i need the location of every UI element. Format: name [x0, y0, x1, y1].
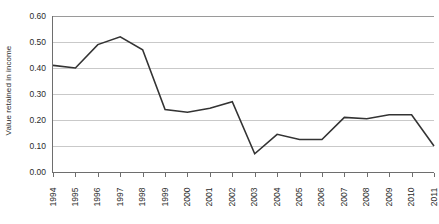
x-tick-mark — [300, 173, 301, 177]
x-tick-mark — [412, 173, 413, 177]
x-tick-label: 1997 — [115, 178, 126, 222]
x-tick-label-text: 2011 — [429, 188, 439, 206]
x-tick-mark — [210, 173, 211, 177]
x-tick-label: 2005 — [294, 178, 305, 222]
x-tick-label: 1994 — [48, 178, 59, 222]
x-tick-mark — [367, 173, 368, 177]
x-tick-label: 1999 — [160, 178, 171, 222]
x-tick-mark — [98, 173, 99, 177]
x-tick-label-text: 2000 — [182, 188, 192, 207]
x-tick-label-text: 2006 — [317, 188, 327, 207]
x-tick-label: 2007 — [339, 178, 350, 222]
x-tick-mark — [255, 173, 256, 177]
x-tick-label: 2006 — [316, 178, 327, 222]
x-tick-label: 2010 — [406, 178, 417, 222]
y-tick-label: 0.30 — [29, 89, 46, 99]
x-tick-label-text: 2009 — [384, 188, 394, 207]
x-tick-label-text: 2003 — [250, 188, 260, 207]
y-axis-line — [52, 16, 53, 173]
x-tick-mark — [344, 173, 345, 177]
line-chart-figure: Value retained in income 0.000.100.200.3… — [0, 0, 439, 224]
x-tick-mark — [53, 173, 54, 177]
x-tick-label-text: 1996 — [93, 188, 103, 207]
x-tick-label: 2003 — [249, 178, 260, 222]
y-axis-title-label: Value retained in income — [5, 45, 14, 135]
x-tick-label-text: 2001 — [205, 188, 215, 207]
x-tick-mark — [187, 173, 188, 177]
x-tick-label: 2011 — [429, 178, 439, 222]
x-tick-label: 2008 — [361, 178, 372, 222]
x-tick-label-text: 1995 — [70, 188, 80, 207]
x-axis-tick-labels: 1994199519961997199819992000200120022003… — [53, 178, 434, 224]
y-tick-label: 0.60 — [29, 11, 46, 21]
x-tick-mark — [434, 173, 435, 177]
x-tick-label: 2001 — [204, 178, 215, 222]
y-tick-label: 0.00 — [29, 167, 46, 177]
data-series-line — [53, 16, 434, 172]
x-tick-mark — [143, 173, 144, 177]
x-tick-label-text: 1998 — [138, 188, 148, 207]
x-tick-label-text: 2004 — [272, 188, 282, 207]
x-tick-label-text: 2008 — [362, 188, 372, 207]
x-tick-mark — [389, 173, 390, 177]
x-tick-label: 2004 — [272, 178, 283, 222]
x-tick-label-text: 2007 — [339, 188, 349, 207]
plot-area — [53, 16, 434, 172]
x-tick-mark — [75, 173, 76, 177]
x-tick-label: 1996 — [92, 178, 103, 222]
x-tick-label: 2002 — [227, 178, 238, 222]
x-tick-label-text: 2002 — [227, 188, 237, 207]
y-axis-tick-labels: 0.000.100.200.300.400.500.60 — [16, 0, 50, 182]
x-tick-label-text: 2005 — [295, 188, 305, 207]
x-tick-label-text: 1994 — [48, 188, 58, 207]
x-tick-mark — [120, 173, 121, 177]
x-tick-label-text: 2010 — [407, 188, 417, 207]
x-tick-mark — [165, 173, 166, 177]
y-tick-label: 0.50 — [29, 37, 46, 47]
x-tick-mark — [277, 173, 278, 177]
x-tick-mark — [232, 173, 233, 177]
x-tick-label: 1995 — [70, 178, 81, 222]
x-tick-mark — [322, 173, 323, 177]
y-tick-label: 0.10 — [29, 141, 46, 151]
x-tick-label: 2009 — [384, 178, 395, 222]
x-tick-label-text: 1997 — [115, 188, 125, 207]
x-tick-label: 1998 — [137, 178, 148, 222]
y-tick-label: 0.20 — [29, 115, 46, 125]
y-tick-label: 0.40 — [29, 63, 46, 73]
x-tick-label-text: 1999 — [160, 188, 170, 207]
x-tick-label: 2000 — [182, 178, 193, 222]
